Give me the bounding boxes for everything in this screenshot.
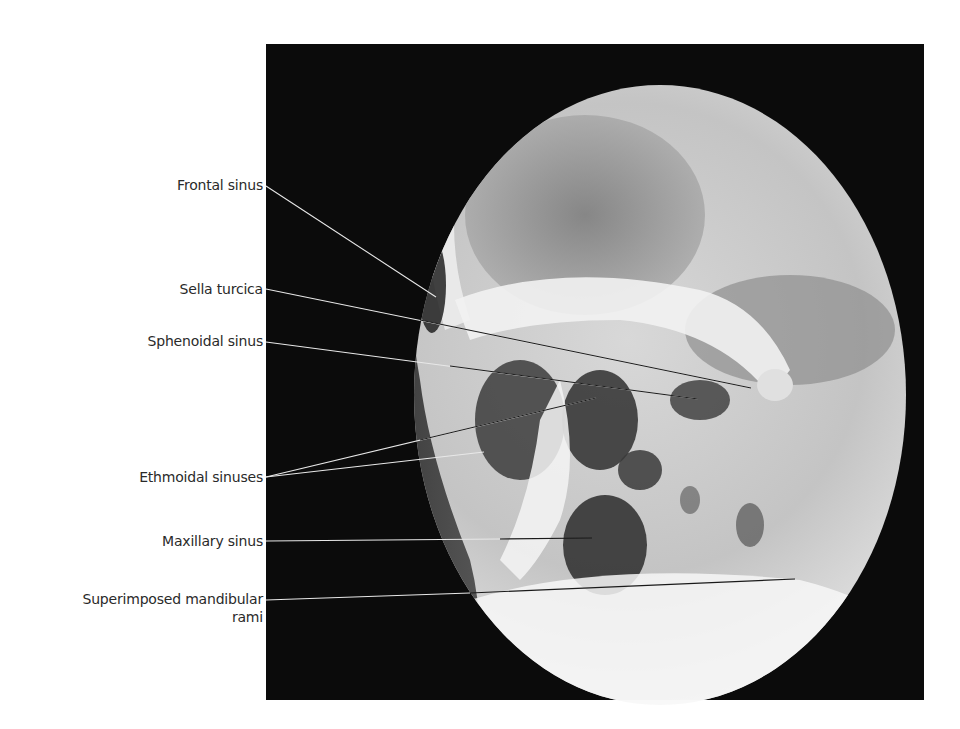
radiograph-image bbox=[0, 0, 960, 729]
label-sella-turcica: Sella turcica bbox=[180, 281, 263, 297]
label-mandibular-rami-line2: rami bbox=[232, 609, 263, 625]
label-maxillary-sinus: Maxillary sinus bbox=[162, 533, 263, 549]
label-ethmoidal-sinuses: Ethmoidal sinuses bbox=[139, 469, 263, 485]
label-sphenoidal-sinus: Sphenoidal sinus bbox=[148, 333, 263, 349]
label-frontal-sinus: Frontal sinus bbox=[177, 177, 263, 193]
label-mandibular-rami-line1: Superimposed mandibular bbox=[83, 591, 264, 607]
radiograph-figure: Frontal sinus Sella turcica Sphenoidal s… bbox=[0, 0, 960, 729]
